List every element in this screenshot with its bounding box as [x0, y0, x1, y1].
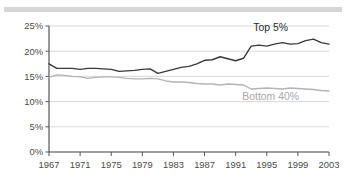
y-tick-label: 10%: [24, 96, 43, 107]
x-tick-label: 1979: [132, 159, 153, 170]
x-tick-label: 1971: [70, 159, 91, 170]
y-tick-label: 15%: [24, 71, 43, 82]
series-line: [49, 39, 329, 73]
y-tick-label: 20%: [24, 46, 43, 57]
x-tick-label: 1999: [287, 159, 308, 170]
chart-figure: 0% 5% 10% 15% 20% 25% 196719711975197919…: [0, 0, 346, 182]
x-tick-label: 1967: [39, 159, 60, 170]
data-series-group: [49, 39, 329, 91]
x-tick-label: 1983: [163, 159, 184, 170]
x-axis-ticks: [49, 152, 329, 156]
y-tick-label: 0%: [29, 146, 43, 157]
y-axis-tick-labels: 0% 5% 10% 15% 20% 25%: [24, 20, 43, 157]
x-tick-label: 1995: [256, 159, 277, 170]
income-share-line-chart: 0% 5% 10% 15% 20% 25% 196719711975197919…: [0, 0, 346, 182]
x-tick-label: 1975: [101, 159, 122, 170]
series-label-bottom-40: Bottom 40%: [242, 91, 299, 102]
y-tick-label: 25%: [24, 20, 43, 31]
series-line: [49, 75, 329, 91]
x-tick-label: 2003: [319, 159, 340, 170]
x-tick-label: 1987: [194, 159, 215, 170]
x-axis-tick-labels: 1967197119751979198319871991199519992003: [39, 159, 340, 170]
y-tick-label: 5%: [29, 121, 43, 132]
series-label-top-5: Top 5%: [253, 22, 288, 33]
x-tick-label: 1991: [225, 159, 246, 170]
